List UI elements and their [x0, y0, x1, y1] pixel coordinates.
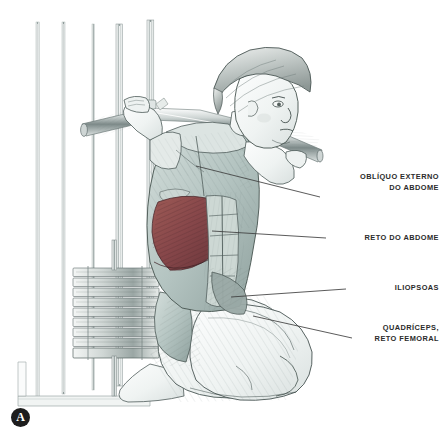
- anatomical-illustration: [0, 0, 447, 443]
- callout-label-reto-do-abdome: RETO DO ABDOME: [289, 233, 439, 244]
- cheek-shading: [257, 114, 271, 123]
- logo-badge: A: [11, 408, 30, 427]
- illustration-page: OBLÍQUO EXTERNO DO ABDOME RETO DO ABDOME…: [0, 0, 447, 443]
- barbell-left-cap: [81, 124, 88, 137]
- barbell-right-cap: [317, 150, 323, 162]
- iris: [277, 103, 281, 107]
- callout-label-quadriceps-reto-femoral: QUADRÍCEPS, RETO FEMORAL: [289, 323, 439, 344]
- callout-label-iliopsoas: ILIOPSOAS: [289, 283, 439, 294]
- stack-bottom-rod: [112, 356, 117, 396]
- hair-strand: [214, 88, 223, 114]
- machine-base-foot: [18, 362, 26, 396]
- callout-label-obliquo-externo-do-abdome: OBLÍQUO EXTERNO DO ABDOME: [289, 172, 439, 193]
- stack-selector-rod: [112, 240, 117, 270]
